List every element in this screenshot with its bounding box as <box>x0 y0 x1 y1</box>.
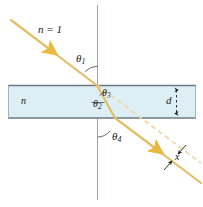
label-slab-medium-index: n <box>21 96 26 106</box>
label-angle-theta1: θ1 <box>76 53 85 66</box>
exit-ray-arrow <box>115 118 158 150</box>
label-outside-medium-index: n = 1 <box>38 24 62 35</box>
theta3-subscript: 3 <box>107 92 111 100</box>
angle-arc-theta4 <box>98 131 111 137</box>
theta1-subscript: 1 <box>81 57 85 66</box>
label-angle-theta2: θ2 <box>93 99 102 111</box>
label-displacement-x: x <box>175 152 179 162</box>
label-angle-theta4: θ4 <box>112 131 121 144</box>
label-thickness-d: d <box>166 95 172 106</box>
theta4-subscript: 4 <box>117 135 121 144</box>
angle-arc-theta1 <box>85 66 97 72</box>
label-outside-medium-index-text: n = 1 <box>38 23 62 35</box>
displacement-measure-arrow-lower <box>164 161 172 170</box>
label-angle-theta3: θ3 <box>102 88 111 100</box>
refraction-diagram: n = 1 n d x θ1 θ3 θ2 θ4 <box>0 0 203 207</box>
theta2-subscript: 2 <box>98 103 102 111</box>
